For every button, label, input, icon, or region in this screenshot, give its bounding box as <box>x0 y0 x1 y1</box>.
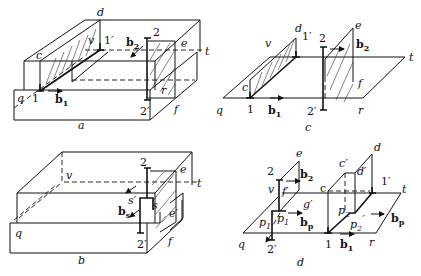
panel-b-label-q: q <box>15 227 22 240</box>
panel-b-bs-arrow-icon <box>130 210 139 217</box>
panel-d-label-p2: p2 <box>338 204 350 219</box>
panel-d-label-g-prime: g′ <box>303 198 313 211</box>
panel-c: d v 1′ 2 e b2 t c f q 1 b1 2′ r c <box>216 19 414 134</box>
panel-c-dislocation-1-1prime <box>250 57 296 98</box>
panel-d: e d 2 b2 c′ d′ v f′ c 1′ t g′ p2 p1′ p1 … <box>238 141 407 269</box>
panel-a-dashed-q-line <box>14 56 85 108</box>
panel-b-label-e: e <box>180 163 187 176</box>
panel-c-label-1prime: 1′ <box>302 30 312 43</box>
panel-c-label-f: f <box>357 77 364 90</box>
panel-a-label-v: v <box>88 34 95 47</box>
panel-d-label-1prime: 1′ <box>381 175 391 188</box>
panel-c-label-d: d <box>295 22 302 35</box>
panel-b-label-s: s <box>152 199 158 212</box>
panel-a: d v 1′ 2 b2 e t c q 1 b1 r 2′ f a <box>14 6 210 132</box>
panel-a-label-b2: b2 <box>126 36 139 51</box>
panel-d-2prime-arrow-icon <box>266 235 271 242</box>
panel-c-label-r: r <box>358 104 364 117</box>
panel-d-label-2prime: 2′ <box>267 243 277 256</box>
panel-b-label-s-prime: s′ <box>128 194 137 207</box>
panel-c-label-2: 2 <box>319 32 326 45</box>
panel-b: 2 e v t s′ s bs e′ q 2′ f b <box>10 152 202 267</box>
panel-a-upper-box <box>24 20 200 90</box>
panel-c-label-b1: b1 <box>268 104 281 119</box>
panel-d-label-p2-prime: p2′ <box>350 213 365 233</box>
panel-d-label-b1: b1 <box>340 238 353 253</box>
panel-d-label-2: 2 <box>267 165 274 178</box>
panel-c-caption: c <box>305 121 311 134</box>
panel-a-label-1prime: 1′ <box>104 34 114 47</box>
panel-d-label-bp-right: bp <box>391 212 405 227</box>
panel-d-caption: d <box>297 256 304 269</box>
panel-a-label-c: c <box>36 49 42 62</box>
panel-b-label-f: f <box>167 235 174 248</box>
panel-b-upper-box <box>17 152 192 223</box>
panel-a-dislocation-1-1prime <box>40 50 100 91</box>
dislocation-diagram-figure: d v 1′ 2 b2 e t c q 1 b1 r 2′ f a d v 1′ <box>0 0 421 276</box>
panel-c-label-1: 1 <box>247 103 254 116</box>
panel-a-label-b1: b1 <box>55 93 68 108</box>
panel-c-extra-half-plane-right <box>325 28 353 82</box>
panel-a-label-e: e <box>181 37 188 50</box>
panel-a-label-f: f <box>173 103 180 116</box>
panel-d-label-b2: b2 <box>300 168 313 183</box>
panel-c-label-b2: b2 <box>356 38 369 53</box>
panel-a-label-1: 1 <box>32 92 39 105</box>
panel-d-label-q: q <box>238 238 245 251</box>
panel-a-lower-slab <box>14 52 197 120</box>
panel-b-label-2prime: 2′ <box>137 238 147 251</box>
panel-b-dashed-v-line <box>62 152 198 182</box>
panel-b-label-2: 2 <box>140 156 147 169</box>
panel-b-label-t: t <box>197 177 202 190</box>
panel-d-label-d-prime: d′ <box>357 165 367 178</box>
panel-c-label-2prime: 2′ <box>307 105 317 118</box>
panel-d-label-v: v <box>268 183 275 196</box>
panel-a-label-q: q <box>17 92 24 105</box>
panel-a-label-2: 2 <box>153 26 160 39</box>
panel-d-label-bp-left: bp <box>300 216 314 231</box>
panel-b-label-v: v <box>66 169 73 182</box>
panel-c-label-c: c <box>242 81 248 94</box>
panel-a-label-d: d <box>97 6 104 19</box>
panel-d-label-c-prime: c′ <box>339 157 348 170</box>
panel-d-label-c: c <box>320 182 326 195</box>
panel-c-label-q: q <box>216 104 223 117</box>
panel-d-label-d: d <box>374 141 381 154</box>
panel-a-label-r: r <box>161 84 167 97</box>
panel-c-hatching-left <box>254 40 294 94</box>
panel-d-label-f-prime: f′ <box>281 185 289 198</box>
panel-a-label-2prime: 2′ <box>140 105 150 118</box>
panel-a-caption: a <box>78 119 85 132</box>
panel-a-label-t: t <box>205 45 210 58</box>
panel-d-label-t: t <box>402 183 407 196</box>
panel-c-label-v: v <box>265 37 272 50</box>
panel-c-label-e: e <box>355 19 362 32</box>
panel-d-label-p1: p1 <box>277 212 289 227</box>
panel-c-label-t: t <box>409 51 414 64</box>
panel-b-label-e-prime: e′ <box>169 207 179 220</box>
panel-d-label-1: 1 <box>325 238 332 251</box>
panel-b-label-bs: bs <box>118 205 131 220</box>
panel-b-arrow-icon <box>126 186 136 193</box>
panel-d-label-r: r <box>369 236 375 249</box>
panel-d-label-e: e <box>296 147 303 160</box>
panel-b-caption: b <box>78 254 85 267</box>
